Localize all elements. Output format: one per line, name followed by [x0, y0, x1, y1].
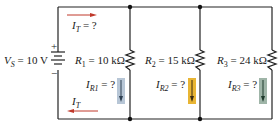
resistor-r2-label: R2 = 15 kΩ: [144, 54, 195, 69]
total-current-label-top: IT = ?: [71, 19, 97, 34]
total-current-arrow-top: [67, 13, 97, 17]
total-current-arrow-bottom: [67, 109, 98, 113]
resistor-r1-label: R1 = 10 kΩ: [74, 54, 125, 69]
resistor-r3-label: R3 = 24 kΩ: [216, 54, 267, 69]
resistor-r3-icon: [268, 50, 276, 70]
minus-sign: −: [51, 67, 57, 79]
branch-current-arrow-r2: [188, 78, 196, 104]
plus-sign: +: [51, 40, 57, 52]
branch-current-arrow-r3: [259, 78, 267, 104]
parallel-circuit-diagram: + − VS = 10 V IT = ? IT R1 = 10 kΩ R2 = …: [0, 0, 280, 130]
branch-current-r3-label: IR3 = ?: [227, 78, 257, 93]
battery-icon: [51, 52, 65, 68]
total-current-label-bottom: IT: [71, 95, 81, 110]
resistor-r2-icon: [196, 50, 204, 70]
resistor-r1-icon: [126, 50, 134, 70]
source-voltage-label: VS = 10 V: [4, 54, 48, 69]
branch-current-r2-label: IR2 = ?: [155, 78, 185, 93]
branch-current-r1-label: IR1 = ?: [85, 78, 115, 93]
branch-current-arrow-r1: [117, 78, 125, 104]
